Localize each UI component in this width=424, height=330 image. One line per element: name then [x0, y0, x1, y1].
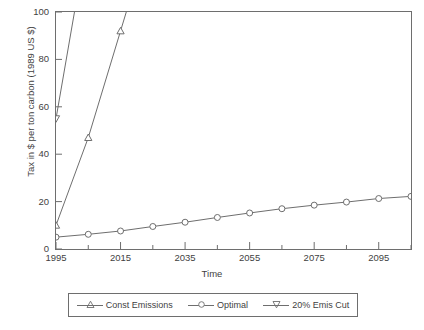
- x-tick-label: 2015: [101, 253, 141, 263]
- x-tick-label: 1995: [36, 253, 76, 263]
- chart-figure: Tax in $ per ton carbon (1989 US $) 0204…: [0, 0, 424, 330]
- legend-label-const-emissions: Const Emissions: [106, 300, 173, 310]
- plot-area: [55, 11, 412, 250]
- legend-label-20-emis-cut: 20% Emis Cut: [292, 300, 349, 310]
- y-tick-label: 40: [23, 149, 49, 159]
- y-tick-label: 100: [23, 7, 49, 17]
- y-tick-label: 60: [23, 102, 49, 112]
- x-axis-title: Time: [0, 268, 424, 279]
- plot-canvas: [56, 12, 411, 249]
- x-tick-label: 2095: [359, 253, 399, 263]
- legend-item-const-emissions[interactable]: Const Emissions: [77, 300, 173, 310]
- chart-legend: Const Emissions Optimal 20: [68, 293, 358, 317]
- y-tick-label: 80: [23, 54, 49, 64]
- x-tick-label: 2055: [230, 253, 270, 263]
- figure-container: Tax in $ per ton carbon (1989 US $) 0204…: [0, 0, 424, 330]
- x-tick-label: 2075: [294, 253, 334, 263]
- legend-item-optimal[interactable]: Optimal: [188, 300, 248, 310]
- legend-item-20-emis-cut[interactable]: 20% Emis Cut: [263, 300, 349, 310]
- triangle-down-icon: [263, 300, 289, 310]
- triangle-up-icon: [77, 300, 103, 310]
- x-tick-label: 2035: [165, 253, 205, 263]
- circle-icon: [188, 300, 214, 310]
- legend-label-optimal: Optimal: [217, 300, 248, 310]
- y-tick-label: 20: [23, 197, 49, 207]
